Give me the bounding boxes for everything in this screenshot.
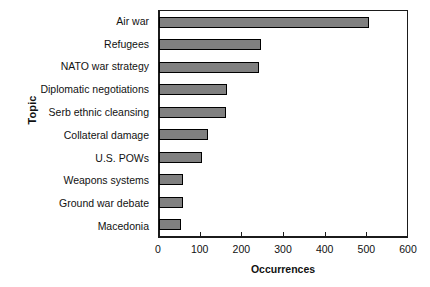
x-tick-label: 0 <box>155 243 161 255</box>
bar <box>159 174 183 185</box>
category-label: NATO war strategy <box>18 56 154 79</box>
x-tick-mark <box>200 232 201 238</box>
bar <box>159 17 369 28</box>
category-label: Ground war debate <box>18 192 154 215</box>
bar <box>159 107 226 118</box>
bar <box>159 84 227 95</box>
bar-row <box>160 191 407 214</box>
x-tick-label: 400 <box>316 243 334 255</box>
category-label: U.S. POWs <box>18 147 154 170</box>
x-tick-mark <box>325 232 326 238</box>
bar <box>159 62 259 73</box>
bar <box>159 197 183 208</box>
plot-area <box>158 10 408 238</box>
category-label: Collateral damage <box>18 124 154 147</box>
bar <box>159 152 202 163</box>
category-label: Diplomatic negotiations <box>18 78 154 101</box>
bar-chart: Topic Air warRefugeesNATO war strategyDi… <box>0 0 430 287</box>
x-tick-label: 100 <box>191 243 209 255</box>
x-tick-label: 500 <box>358 243 376 255</box>
x-tick-label: 300 <box>274 243 292 255</box>
bar-row <box>160 34 407 57</box>
category-label: Refugees <box>18 33 154 56</box>
x-axis-tick-labels: 0100200300400500600 <box>158 243 408 259</box>
x-tick-mark <box>283 232 284 238</box>
bar <box>159 39 261 50</box>
x-tick-label: 600 <box>399 243 417 255</box>
bar-row <box>160 101 407 124</box>
bar-row <box>160 56 407 79</box>
bar-row <box>160 124 407 147</box>
x-tick-mark <box>366 232 367 238</box>
x-tick-label: 200 <box>233 243 251 255</box>
x-tick-mark <box>241 232 242 238</box>
category-label: Serb ethnic cleansing <box>18 101 154 124</box>
category-label: Weapons systems <box>18 170 154 193</box>
bar-row <box>160 79 407 102</box>
bar <box>159 219 181 230</box>
bar-series <box>160 11 407 236</box>
category-label: Air war <box>18 10 154 33</box>
bar-row <box>160 169 407 192</box>
bar-row <box>160 11 407 34</box>
category-axis-labels: Air warRefugeesNATO war strategyDiplomat… <box>18 10 154 238</box>
x-axis-title: Occurrences <box>158 263 408 275</box>
bar <box>159 129 208 140</box>
bar-row <box>160 146 407 169</box>
category-label: Macedonia <box>18 215 154 238</box>
